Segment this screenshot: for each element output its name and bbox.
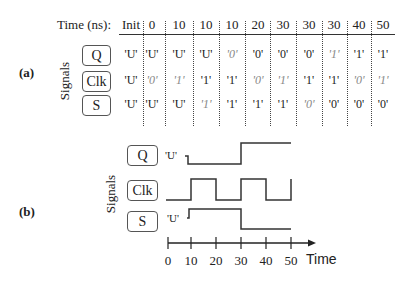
s-waveform xyxy=(187,209,291,229)
q-waveform xyxy=(185,143,291,164)
x-tick-0: 0 xyxy=(158,253,178,269)
x-axis-label: Time xyxy=(306,251,337,267)
x-tick-40: 40 xyxy=(256,253,276,269)
waveform-plot xyxy=(0,0,403,287)
clk-waveform xyxy=(166,179,291,200)
s-initial-label: 'U' xyxy=(167,212,179,224)
time-axis-arrow-icon xyxy=(308,240,316,247)
x-tick-30: 30 xyxy=(231,253,251,269)
x-tick-50: 50 xyxy=(281,253,301,269)
x-tick-20: 20 xyxy=(206,253,226,269)
q-initial-label: 'U' xyxy=(165,149,177,161)
x-tick-10: 10 xyxy=(181,253,201,269)
